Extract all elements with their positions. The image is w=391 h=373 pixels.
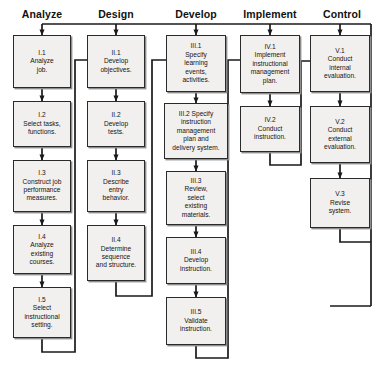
isd-flowchart: Analyze Design Develop Implement Control… [0,0,391,373]
node-II-4[interactable]: II.4 Determine sequence and structure. [87,225,145,281]
node-I-1[interactable]: I.1 Analyze job. [13,35,71,88]
node-I-4-text: I.4 Analyze existing courses. [15,233,69,267]
node-I-2-text: I.2 Select tasks, functions. [15,111,69,136]
node-IV-1[interactable]: IV.1 Implement instructional management … [240,35,300,93]
node-I-3-text: I.3 Construct job performance measures. [15,169,69,203]
node-I-4[interactable]: I.4 Analyze existing courses. [13,225,71,274]
node-III-2-text: III.2 Specify instruction management pla… [166,110,226,152]
node-III-3-text: III.3 Review, select existing materials. [168,177,224,219]
node-I-2[interactable]: I.2 Select tasks, functions. [13,101,71,147]
node-II-1-text: II.1 Develop objectives. [89,49,143,74]
node-I-5-text: I.5 Select instructional setting. [15,296,69,330]
phase-header-implement: Implement [232,8,308,20]
node-I-3[interactable]: I.3 Construct job performance measures. [13,160,71,212]
node-III-3[interactable]: III.3 Review, select existing materials. [166,171,226,225]
node-IV-2[interactable]: IV.2 Conduct instruction. [240,106,300,152]
node-II-2-text: II.2 Develop tests. [89,111,143,136]
phase-header-analyze: Analyze [6,8,78,20]
node-I-1-text: I.1 Analyze job. [15,49,69,74]
node-V-1[interactable]: V.1 Conduct internal evaluation. [310,35,370,92]
node-III-5-text: III.5 Validate instruction. [168,308,224,333]
node-II-4-text: II.4 Determine sequence and structure. [89,236,143,270]
node-III-1-text: III.1 Specify learning events, activitie… [168,42,224,84]
node-V-2[interactable]: V.2 Conduct external evaluation. [310,106,370,163]
node-II-3-text: II.3 Describe entry behavior. [89,169,143,203]
node-II-1[interactable]: II.1 Develop objectives. [87,35,145,88]
node-III-1[interactable]: III.1 Specify learning events, activitie… [166,35,226,92]
node-IV-2-text: IV.2 Conduct instruction. [242,116,298,141]
node-III-2[interactable]: III.2 Specify instruction management pla… [164,103,228,159]
phase-header-control: Control [306,8,378,20]
node-I-5[interactable]: I.5 Select instructional setting. [13,287,71,338]
node-II-3[interactable]: II.3 Describe entry behavior. [87,160,145,212]
link-revise-to-rail [340,228,371,242]
node-V-3-text: V.3 Revise system. [312,190,368,215]
node-III-5[interactable]: III.5 Validate instruction. [166,297,226,345]
node-V-2-text: V.2 Conduct external evaluation. [312,118,368,152]
phase-header-develop: Develop [160,8,232,20]
phase-header-design: Design [80,8,152,20]
node-III-4[interactable]: III.4 Develop instruction. [166,237,226,284]
node-IV-1-text: IV.1 Implement instructional management … [242,43,298,85]
node-V-1-text: V.1 Conduct internal evaluation. [312,47,368,81]
node-III-4-text: III.4 Develop instruction. [168,248,224,273]
node-V-3[interactable]: V.3 Revise system. [310,178,370,228]
node-II-2[interactable]: II.2 Develop tests. [87,101,145,147]
